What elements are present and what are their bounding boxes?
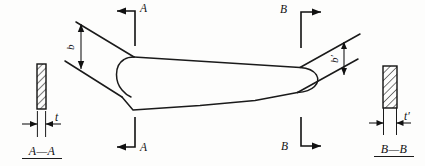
section-label-bottom-left: A — [139, 141, 148, 153]
engineering-drawing-canvas: A A B B b — [0, 0, 425, 166]
section-leader-bottom-left — [117, 117, 135, 147]
blade-lower-surface — [122, 93, 298, 111]
section-label-bottom-right: B — [281, 140, 288, 152]
dimension-label-b-prime: b′ — [328, 55, 340, 64]
arrow-left-icon — [117, 143, 126, 150]
section-b-profile — [383, 66, 397, 108]
dimension-label-t-prime: t′ — [404, 110, 410, 122]
blade-upper-surface — [134, 57, 318, 93]
section-leader-top-right — [301, 12, 321, 48]
section-mark-top-left[interactable]: A — [117, 2, 148, 46]
section-mark-bottom-right[interactable]: B — [281, 117, 321, 152]
dimension-label-t: t — [55, 111, 59, 123]
arrow-left-icon — [46, 121, 53, 127]
section-leader-bottom-right — [301, 117, 321, 146]
arrow-left-icon — [397, 120, 404, 126]
section-mark-bottom-left[interactable]: A — [117, 117, 148, 153]
blade-section-drawing: A A B B b — [0, 0, 425, 166]
arrow-right-icon — [312, 8, 321, 15]
arrow-up-icon — [78, 24, 84, 32]
blade-root-fillet — [117, 57, 135, 97]
dimension-label-b: b — [64, 44, 76, 50]
blade-root-upper-edge — [76, 22, 134, 57]
section-mark-top-right[interactable]: B — [280, 3, 321, 48]
arrow-up-icon — [341, 42, 347, 49]
arrow-right-icon — [377, 120, 384, 126]
section-caption-a-a: A—A — [28, 144, 56, 158]
section-caption-b-b: B—B — [381, 142, 408, 156]
arrow-right-icon — [30, 121, 37, 127]
section-a-profile — [37, 64, 46, 109]
arrow-right-icon — [312, 142, 321, 149]
arrow-down-icon — [341, 68, 347, 75]
section-label-top-left: A — [139, 2, 148, 14]
arrow-left-icon — [117, 7, 126, 14]
section-view-a-a: t A—A — [22, 64, 62, 159]
arrow-down-icon — [78, 61, 84, 69]
section-label-top-right: B — [280, 3, 287, 15]
section-view-b-b: t′ B—B — [369, 66, 414, 157]
section-leader-top-left — [117, 11, 135, 46]
blade-outline — [65, 22, 360, 110]
blade-root-lower-edge — [65, 61, 122, 97]
